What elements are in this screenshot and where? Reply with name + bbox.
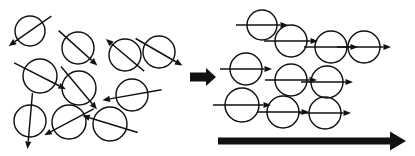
- spin-arrow-shaft: [14, 63, 59, 86]
- domain-d4: [136, 36, 183, 68]
- applied-field-arrow: [218, 132, 406, 151]
- spin-arrow-shaft: [28, 93, 32, 141]
- spin-arrow-head: [9, 39, 17, 46]
- field-arrow-head: [390, 132, 406, 151]
- transition-arrow-head: [206, 68, 216, 86]
- spin-arrow-shaft: [110, 90, 162, 99]
- field-arrow-shaft: [218, 138, 390, 145]
- domain-d9: [44, 105, 93, 139]
- domain-o6: [265, 64, 317, 96]
- figure-canvas: [0, 0, 415, 156]
- spin-arrow-head: [25, 141, 31, 149]
- domain-o10: [299, 97, 351, 129]
- spin-arrow-shaft: [51, 109, 94, 132]
- spin-arrow-head: [346, 79, 354, 85]
- ordered-domain-panel: [213, 10, 391, 129]
- disordered-domain-panel: [9, 16, 183, 149]
- domain-d7: [102, 79, 161, 111]
- domain-o1: [236, 10, 288, 40]
- domain-o4: [337, 31, 391, 63]
- domain-o7: [301, 66, 353, 98]
- spin-arrow-head: [344, 110, 352, 116]
- domain-d10: [82, 107, 137, 141]
- spin-arrow-head: [265, 66, 273, 72]
- domain-o8: [213, 88, 271, 122]
- domain-d1: [9, 16, 52, 46]
- domain-d5: [14, 59, 66, 93]
- domain-d3: [106, 39, 144, 71]
- spin-arrow-head: [102, 96, 110, 102]
- magnetic-domain-figure: Magnetic domain alignment under an appli…: [0, 0, 415, 156]
- spin-arrow-head: [384, 44, 392, 50]
- transition-arrow: [190, 68, 216, 86]
- spin-arrow-shaft: [89, 118, 137, 133]
- domain-o5: [220, 53, 272, 85]
- domain-o2: [264, 25, 318, 57]
- domain-d6: [61, 67, 97, 110]
- spin-arrow-head: [302, 109, 310, 115]
- domain-o9: [257, 96, 309, 128]
- domain-d2: [59, 31, 98, 66]
- spin-arrow-shaft: [136, 39, 176, 62]
- domain-d8: [14, 93, 46, 149]
- transition-arrow-shaft: [190, 73, 206, 82]
